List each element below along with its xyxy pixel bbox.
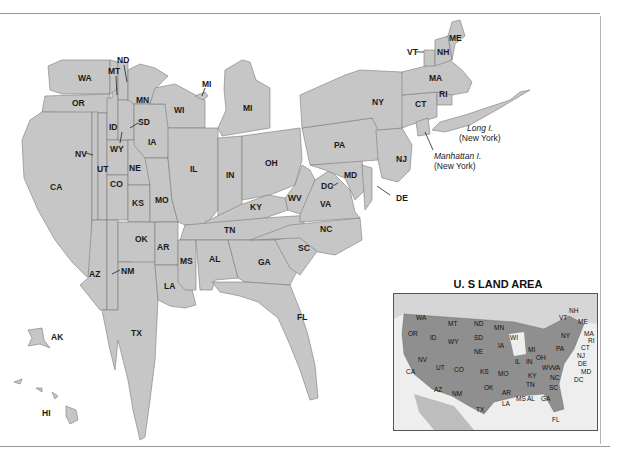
leader-de	[377, 186, 390, 195]
state-NY[interactable]	[300, 70, 404, 130]
label-AK: AK	[51, 332, 64, 342]
label-MS: MS	[180, 256, 193, 266]
svg-text:FL: FL	[552, 416, 560, 423]
label-IN: IN	[226, 170, 235, 180]
label-manhattan-island: Manhattan I.	[434, 151, 481, 161]
label-NH: NH	[437, 47, 449, 57]
svg-text:NM: NM	[452, 390, 462, 397]
svg-text:KY: KY	[528, 372, 537, 379]
label-CA: CA	[50, 182, 62, 192]
svg-text:MD: MD	[581, 368, 591, 375]
label-VA: VA	[320, 199, 331, 209]
label-NC: NC	[320, 224, 332, 234]
label-AL: AL	[209, 254, 220, 264]
svg-text:PA: PA	[556, 345, 565, 352]
state-SD[interactable]	[118, 100, 134, 140]
svg-text:AL: AL	[527, 395, 535, 402]
svg-text:WA: WA	[416, 314, 427, 321]
svg-text:NV: NV	[418, 356, 428, 363]
label-CO: CO	[110, 179, 123, 189]
svg-text:IL: IL	[515, 358, 521, 365]
svg-text:RI: RI	[588, 337, 595, 344]
label-PA: PA	[334, 140, 345, 150]
svg-text:TX: TX	[476, 406, 485, 413]
svg-text:ND: ND	[474, 320, 484, 327]
state-IA[interactable]	[134, 104, 170, 158]
svg-text:OH: OH	[536, 354, 546, 361]
svg-text:NE: NE	[474, 348, 484, 355]
label-CT: CT	[415, 99, 427, 109]
state-AK[interactable]	[28, 328, 50, 348]
label-UT: UT	[97, 164, 109, 174]
svg-text:VT: VT	[559, 314, 567, 321]
label-MI-UP: MI	[202, 79, 211, 89]
label-NV: NV	[75, 149, 87, 159]
label-WI: WI	[174, 105, 184, 115]
svg-text:OK: OK	[484, 384, 494, 391]
svg-text:LA: LA	[502, 400, 511, 407]
svg-text:NJ: NJ	[577, 352, 585, 359]
label-KS: KS	[132, 198, 144, 208]
svg-text:DC: DC	[574, 376, 584, 383]
label-long-island: Long I.	[467, 123, 493, 133]
label-DC: DC	[321, 181, 333, 191]
label-WA: WA	[78, 73, 92, 83]
svg-text:GA: GA	[541, 395, 551, 402]
label-NY: NY	[372, 97, 384, 107]
label-ND: ND	[117, 55, 129, 65]
svg-text:NH: NH	[569, 307, 579, 314]
label-MI: MI	[243, 103, 252, 113]
svg-text:VA: VA	[552, 364, 561, 371]
svg-text:WV: WV	[542, 364, 553, 371]
label-manhattan-state: (New York)	[434, 161, 476, 171]
state-NM[interactable]	[107, 220, 118, 310]
svg-text:MO: MO	[498, 370, 508, 377]
svg-text:CT: CT	[581, 344, 590, 351]
label-NM: NM	[121, 266, 134, 276]
svg-text:KS: KS	[480, 368, 489, 375]
label-LA: LA	[164, 281, 175, 291]
label-TX: TX	[131, 328, 142, 338]
label-MT: MT	[108, 66, 121, 76]
svg-text:SD: SD	[474, 334, 483, 341]
state-MI[interactable]	[218, 60, 270, 136]
label-KY: KY	[250, 202, 262, 212]
state-CA[interactable]	[22, 112, 92, 278]
svg-text:WY: WY	[448, 338, 459, 345]
state-VT[interactable]	[424, 50, 435, 66]
label-MO: MO	[155, 195, 169, 205]
label-RI: RI	[439, 89, 448, 99]
label-HI: HI	[42, 408, 51, 418]
label-DE: DE	[396, 193, 408, 203]
svg-text:MN: MN	[494, 324, 504, 331]
svg-text:ME: ME	[578, 318, 588, 325]
label-long-island-state: (New York)	[459, 133, 501, 143]
label-WY: WY	[110, 144, 124, 154]
svg-text:NC: NC	[550, 374, 560, 381]
label-IA: IA	[148, 137, 157, 147]
label-SC: SC	[298, 243, 310, 253]
label-NJ: NJ	[396, 154, 407, 164]
inset-title: U. S LAND AREA	[398, 278, 598, 290]
svg-text:OR: OR	[408, 330, 418, 337]
inset-map: WA OR CA NV ID MT WY UT CO AZ NM ND SD N…	[393, 293, 598, 431]
label-ME: ME	[449, 33, 462, 43]
state-FL[interactable]	[212, 282, 318, 400]
svg-text:MS: MS	[516, 395, 526, 402]
svg-text:ID: ID	[430, 334, 437, 341]
state-IL[interactable]	[168, 128, 218, 225]
label-MD: MD	[344, 170, 357, 180]
svg-text:DE: DE	[578, 360, 588, 367]
label-AR: AR	[157, 242, 169, 252]
label-VT: VT	[407, 47, 419, 57]
label-MN: MN	[136, 95, 149, 105]
label-OK: OK	[135, 234, 149, 244]
svg-text:TN: TN	[526, 381, 535, 388]
state-DE[interactable]	[362, 165, 372, 210]
svg-text:IN: IN	[526, 358, 533, 365]
svg-text:MT: MT	[448, 320, 457, 327]
svg-text:UT: UT	[436, 364, 445, 371]
inset-us-map: WA OR CA NV ID MT WY UT CO AZ NM ND SD N…	[394, 294, 597, 430]
label-IL: IL	[190, 164, 198, 174]
label-ID: ID	[109, 122, 118, 132]
